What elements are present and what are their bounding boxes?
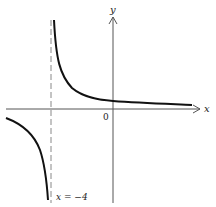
graph: y x 0 x = −4 xyxy=(0,0,216,207)
curve-left-branch xyxy=(6,118,48,200)
x-axis-label: x xyxy=(204,103,210,114)
y-axis-label: y xyxy=(109,4,116,15)
origin-label: 0 xyxy=(103,112,109,122)
asymptote-label: x = −4 xyxy=(56,192,88,202)
curve-right-branch xyxy=(54,20,192,105)
